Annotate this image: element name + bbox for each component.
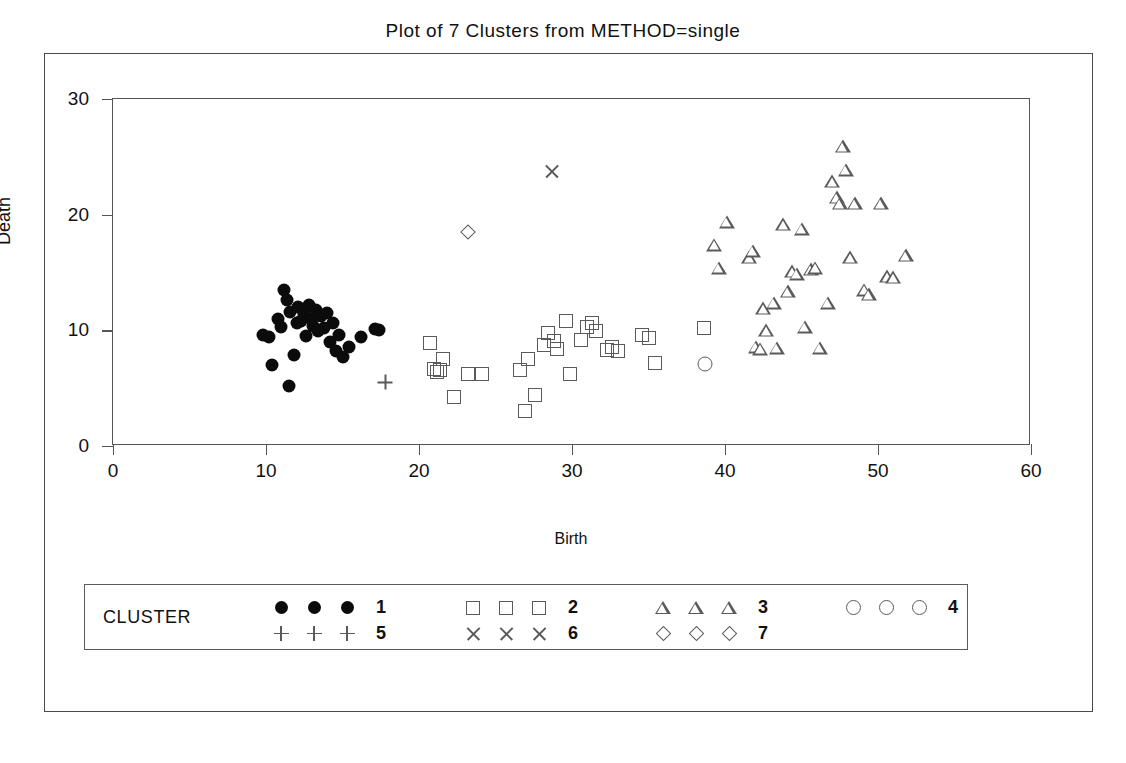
y-tick-label: 30	[68, 88, 89, 110]
open-circle-marker-icon	[911, 600, 927, 616]
y-tick-mark	[102, 330, 113, 331]
filled-circle-marker-icon	[266, 359, 279, 372]
x-marker-icon	[465, 626, 481, 642]
data-point-cluster-3	[873, 197, 889, 210]
x-tick-label: 0	[108, 460, 119, 482]
open-triangle-marker-icon	[752, 342, 768, 355]
x-tick-label: 10	[255, 460, 276, 482]
legend-item-label: 6	[568, 623, 578, 644]
data-point-cluster-7	[462, 227, 473, 238]
data-point-cluster-2	[447, 390, 461, 404]
open-triangle-marker-icon	[721, 600, 737, 616]
data-point-cluster-3	[745, 244, 761, 257]
y-tick-label: 0	[78, 435, 89, 457]
open-square-marker-icon	[697, 321, 711, 335]
x-tick-label: 40	[714, 460, 735, 482]
open-triangle-marker-icon	[898, 249, 914, 262]
x-tick-mark	[266, 444, 267, 455]
data-point-cluster-1	[266, 359, 279, 372]
data-point-cluster-2	[611, 344, 625, 358]
legend-item-cluster-5[interactable]: 5	[273, 623, 386, 644]
x-tick-mark	[419, 444, 420, 455]
open-square-marker-icon	[518, 404, 532, 418]
data-point-cluster-4	[698, 356, 713, 371]
x-marker-icon	[545, 163, 560, 178]
data-point-cluster-1	[275, 320, 288, 333]
data-point-cluster-3	[706, 238, 722, 251]
open-triangle-marker-icon	[842, 251, 858, 264]
chart-title: Plot of 7 Clusters from METHOD=single	[0, 20, 1126, 42]
legend-item-cluster-6[interactable]: 6	[465, 623, 578, 644]
data-point-cluster-2	[528, 388, 542, 402]
legend-item-label: 7	[758, 623, 768, 644]
open-triangle-marker-icon	[655, 600, 671, 616]
data-point-cluster-1	[373, 324, 386, 337]
open-triangle-marker-icon	[706, 238, 722, 251]
data-point-cluster-3	[842, 251, 858, 264]
open-triangle-marker-icon	[766, 296, 782, 309]
filled-circle-marker-icon	[287, 348, 300, 361]
open-triangle-marker-icon	[780, 285, 796, 298]
open-triangle-marker-icon	[769, 341, 785, 354]
data-point-cluster-2	[521, 352, 535, 366]
y-tick-mark	[102, 99, 113, 100]
diamond-marker-icon	[655, 626, 671, 642]
plus-marker-icon	[273, 626, 289, 642]
plus-marker-icon	[306, 626, 322, 642]
legend-item-cluster-2[interactable]: 2	[465, 597, 578, 618]
plus-marker-icon	[378, 375, 393, 390]
data-point-cluster-2	[574, 333, 588, 347]
data-point-cluster-3	[835, 140, 851, 153]
open-triangle-marker-icon	[745, 244, 761, 257]
x-marker-icon	[531, 626, 547, 642]
x-tick-label: 30	[561, 460, 582, 482]
data-point-cluster-2	[461, 367, 475, 381]
data-point-cluster-3	[752, 342, 768, 355]
open-triangle-marker-icon	[797, 320, 813, 333]
filled-circle-marker-icon	[275, 320, 288, 333]
x-tick-label: 60	[1020, 460, 1041, 482]
data-point-cluster-3	[838, 163, 854, 176]
data-point-cluster-2	[475, 367, 489, 381]
filled-circle-marker-icon	[306, 600, 322, 616]
legend-item-cluster-1[interactable]: 1	[273, 597, 386, 618]
open-triangle-marker-icon	[824, 175, 840, 188]
open-square-marker-icon	[648, 356, 662, 370]
open-triangle-marker-icon	[835, 140, 851, 153]
data-point-cluster-1	[287, 348, 300, 361]
open-triangle-marker-icon	[820, 296, 836, 309]
open-square-marker-icon	[589, 324, 603, 338]
legend-item-cluster-3[interactable]: 3	[655, 597, 768, 618]
y-tick-label: 10	[68, 319, 89, 341]
open-circle-marker-icon	[845, 600, 861, 616]
open-triangle-marker-icon	[861, 288, 877, 301]
data-point-cluster-3	[824, 175, 840, 188]
filled-circle-marker-icon	[373, 324, 386, 337]
data-point-cluster-2	[563, 367, 577, 381]
diamond-marker-icon	[460, 224, 476, 240]
data-point-cluster-2	[550, 342, 564, 356]
open-square-marker-icon	[642, 331, 656, 345]
open-square-marker-icon	[465, 600, 481, 616]
open-square-marker-icon	[423, 336, 437, 350]
x-tick-mark	[572, 444, 573, 455]
filled-circle-marker-icon	[273, 600, 289, 616]
data-point-cluster-3	[861, 288, 877, 301]
open-triangle-marker-icon	[794, 222, 810, 235]
diamond-marker-icon	[721, 626, 737, 642]
filled-circle-marker-icon	[354, 331, 367, 344]
legend-item-cluster-4[interactable]: 4	[845, 597, 958, 618]
data-point-cluster-5	[378, 375, 393, 390]
legend-item-cluster-7[interactable]: 7	[655, 623, 768, 644]
data-point-cluster-1	[282, 379, 295, 392]
plot-area: 0102030405060 0102030	[112, 98, 1030, 445]
data-point-cluster-2	[697, 321, 711, 335]
legend-item-label: 4	[948, 597, 958, 618]
open-triangle-marker-icon	[775, 217, 791, 230]
legend-title: CLUSTER	[103, 607, 191, 628]
open-triangle-marker-icon	[838, 163, 854, 176]
x-tick-mark	[113, 444, 114, 455]
data-point-cluster-3	[820, 296, 836, 309]
data-point-cluster-2	[589, 324, 603, 338]
open-square-marker-icon	[563, 367, 577, 381]
